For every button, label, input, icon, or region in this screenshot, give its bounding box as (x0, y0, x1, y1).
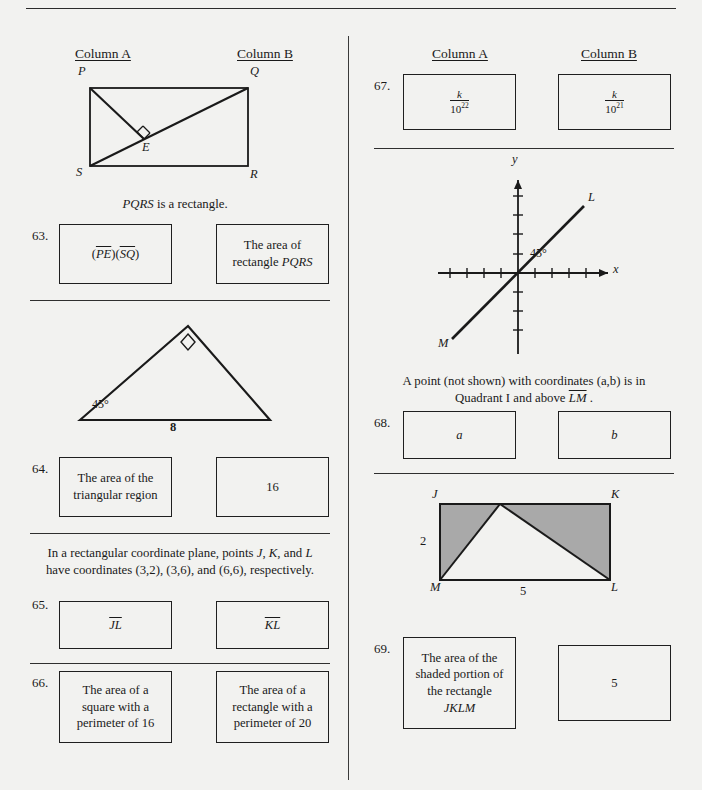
q64-column-a-box[interactable]: The area of the triangular region (59, 457, 172, 517)
q67-column-a-box[interactable]: k 1022 (403, 74, 516, 130)
stem-68-line2: Quadrant I and above LM . (368, 390, 680, 407)
q69-column-b-box[interactable]: 5 (558, 645, 671, 721)
q65-column-a-value: JL (109, 617, 122, 634)
question-number-67: 67. (374, 78, 390, 94)
q67-column-b-box[interactable]: k 1021 (558, 74, 671, 130)
caption-pqrs: PQRS is a rectangle. (40, 196, 310, 213)
q67-b-fraction: k 1021 (605, 89, 624, 116)
q68-column-b-box[interactable]: b (558, 411, 671, 459)
q63-a-segment-pe: PE (96, 247, 111, 261)
q66-column-b-box[interactable]: The area of a rectangle with a perimeter… (216, 671, 329, 743)
q63-a-close: ) (135, 247, 139, 261)
figure-rectangle-pqrs: P Q R S E (80, 78, 260, 183)
separator-after-q67 (374, 148, 674, 149)
q66-column-b-value: The area of a rectangle with a perimeter… (223, 682, 322, 732)
q68-column-a-box[interactable]: a (403, 411, 516, 459)
q67-a-fraction: k 1022 (450, 89, 469, 116)
vertex-label-p: P (78, 64, 86, 79)
column-divider (348, 36, 349, 780)
vertex-label-q: Q (250, 64, 259, 79)
test-page: Column A Column B P Q R S E PQRS is a re… (0, 0, 702, 790)
q68-column-b-value: b (565, 427, 664, 444)
q63-b-line1: The area of (223, 237, 322, 254)
right-column-a-header: Column A (432, 46, 488, 62)
point-label-e: E (142, 140, 150, 155)
q67-a-exponent: 22 (461, 101, 469, 110)
figure-coordinate-graph: y x 45° L M (420, 158, 640, 358)
right-column-b-header: Column B (581, 46, 637, 62)
q69-column-a-box[interactable]: The area of the shaded portion of the re… (403, 637, 516, 729)
q69-a-line1: The area of the (410, 650, 509, 667)
q65-column-b-value: KL (265, 617, 280, 634)
q67-a-numerator: k (450, 89, 469, 102)
q68-column-a-value: a (410, 427, 509, 444)
point-label-m: M (438, 336, 448, 351)
vertex-label-l: L (611, 580, 618, 595)
q63-a-segment-sq: SQ (120, 247, 135, 261)
stem-65-line2: have coordinates (3,2), (3,6), and (6,6)… (24, 562, 336, 579)
q63-b-rect-name: PQRS (282, 255, 313, 269)
q63-a-mid: )( (111, 247, 119, 261)
separator-after-q68 (374, 473, 674, 474)
q65-column-b-box[interactable]: KL (216, 601, 329, 649)
figure-right-triangle: 45° 8 (70, 312, 280, 432)
q69-column-b-value: 5 (565, 675, 664, 692)
vertex-label-s: S (76, 165, 82, 180)
q66-a-line3: perimeter of 16 (66, 715, 165, 732)
q63-column-b-box[interactable]: The area of rectangle PQRS (216, 224, 329, 284)
left-column-a-header: Column A (75, 46, 131, 62)
triangle-angle-label: 45° (92, 397, 109, 412)
jklm-base-label: 5 (520, 584, 526, 599)
y-axis-label: y (512, 152, 518, 167)
stem-65: In a rectangular coordinate plane, point… (24, 545, 336, 579)
figure-rectangle-jklm: J K M L 2 5 (428, 490, 628, 600)
q66-column-a-value: The area of a square with a perimeter of… (66, 682, 165, 732)
q69-a-line4: JKLM (410, 700, 509, 717)
q67-b-exponent: 21 (616, 101, 624, 110)
stem-65-line1: In a rectangular coordinate plane, point… (24, 545, 336, 562)
point-label-l: L (588, 190, 595, 205)
q63-b-line2: rectangle PQRS (223, 254, 322, 271)
vertex-label-j: J (432, 487, 438, 502)
vertex-label-r: R (250, 167, 258, 182)
q67-b-denominator: 1021 (605, 101, 624, 115)
q65-column-a-box[interactable]: JL (59, 601, 172, 649)
q67-a-denominator: 1022 (450, 101, 469, 115)
separator-after-q64 (30, 533, 330, 534)
q67-column-a-value: k 1022 (410, 89, 509, 116)
q64-column-b-value: 16 (223, 479, 322, 496)
separator-after-q65 (30, 663, 330, 664)
q69-a-line3: the rectangle (410, 683, 509, 700)
q69-column-a-value: The area of the shaded portion of the re… (410, 650, 509, 716)
q69-a-line2: shaded portion of (410, 666, 509, 683)
left-column-b-header: Column B (237, 46, 293, 62)
q64-a-line2: triangular region (66, 487, 165, 504)
q66-column-a-box[interactable]: The area of a square with a perimeter of… (59, 671, 172, 743)
q64-column-a-value: The area of the triangular region (66, 470, 165, 503)
question-number-68: 68. (374, 415, 390, 431)
triangle-base-label: 8 (170, 420, 176, 435)
q63-column-b-value: The area of rectangle PQRS (223, 237, 322, 270)
vertex-label-k: K (611, 487, 619, 502)
q67-column-b-value: k 1021 (565, 89, 664, 116)
caption-pqrs-text: is a rectangle. (154, 197, 228, 211)
caption-pqrs-name: PQRS (122, 197, 153, 211)
question-number-65: 65. (32, 597, 48, 613)
stem-68-line1: A point (not shown) with coordinates (a,… (368, 373, 680, 390)
jklm-height-label: 2 (420, 534, 426, 549)
q66-a-line1: The area of a (66, 682, 165, 699)
question-number-69: 69. (374, 641, 390, 657)
q64-column-b-box[interactable]: 16 (216, 457, 329, 517)
stem-68: A point (not shown) with coordinates (a,… (368, 373, 680, 407)
q66-b-line1: The area of a (223, 682, 322, 699)
question-number-63: 63. (32, 228, 48, 244)
q64-a-line1: The area of the (66, 470, 165, 487)
q63-column-a-box[interactable]: (PE)(SQ) (59, 224, 172, 284)
graph-angle-label: 45° (530, 246, 547, 261)
question-number-64: 64. (32, 461, 48, 477)
q66-b-line2: rectangle with a (223, 699, 322, 716)
separator-after-q63 (30, 300, 330, 301)
vertex-label-m: M (430, 580, 440, 595)
q66-b-line3: perimeter of 20 (223, 715, 322, 732)
stem-68-segment-lm: LM (569, 391, 587, 405)
